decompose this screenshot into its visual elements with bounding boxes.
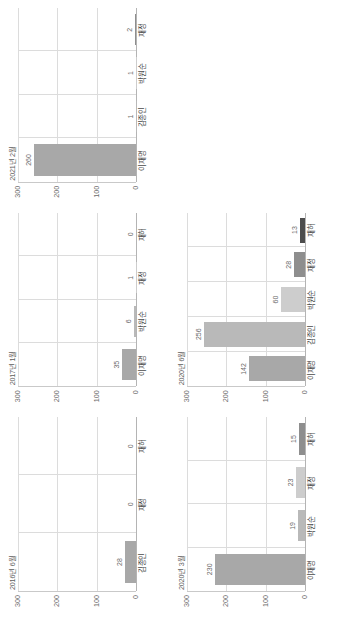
bar-value-label: 15 — [290, 435, 298, 443]
x-tick-label: 박원순 — [305, 283, 317, 318]
bar[interactable] — [122, 349, 136, 380]
plot-canvas: 260112 — [18, 8, 136, 183]
bar[interactable] — [34, 144, 136, 175]
bar-value-label: 28 — [285, 261, 293, 269]
bar-value-label: 1 — [127, 115, 135, 119]
bar-column[interactable]: 142 — [187, 352, 305, 387]
bar[interactable] — [299, 423, 305, 454]
bar-series: 260112 — [18, 8, 136, 182]
bar-column[interactable]: 35 — [18, 343, 136, 386]
bar-value-label: 2 — [126, 28, 134, 32]
bar[interactable] — [296, 467, 305, 498]
axis-baseline — [305, 213, 306, 387]
bar-value-label: 23 — [287, 479, 295, 487]
y-tick-label: 200 — [53, 390, 61, 402]
bar[interactable] — [294, 252, 305, 277]
x-axis: 이재명박원순재정재허 — [136, 213, 148, 388]
y-tick-label: 300 — [14, 390, 22, 402]
y-axis: 3002001000 — [187, 592, 305, 616]
bar[interactable] — [125, 541, 136, 583]
bar-column[interactable]: 260 — [18, 138, 136, 181]
axis-baseline — [136, 213, 137, 387]
bar-value-label: 230 — [206, 563, 214, 575]
bar-column[interactable]: 0 — [18, 475, 136, 533]
x-tick-label: 재허 — [305, 213, 317, 248]
x-tick-label: 재허 — [305, 417, 317, 461]
bar[interactable] — [204, 322, 305, 347]
bar-value-label: 28 — [116, 558, 124, 566]
chart-panel-empty — [175, 4, 344, 209]
chart-panel-2020-06: 2020년 6월 3002001000 142256602813 이재명김종인박… — [175, 209, 344, 414]
x-tick-label: 재허 — [136, 213, 148, 257]
chart-panel-2017-01: 2017년 1월 3002001000 35610 이재명박원순재정재허 — [6, 209, 175, 414]
bar-value-label: 256 — [195, 328, 203, 340]
bar-series: 2800 — [18, 417, 136, 591]
bar-value-label: 35 — [113, 361, 121, 369]
x-tick-label: 박원순 — [136, 300, 148, 344]
bar-column[interactable]: 1 — [18, 51, 136, 94]
x-tick-label: 박원순 — [136, 52, 148, 96]
x-axis: 김종인재정재허 — [136, 417, 148, 592]
bar-value-label: 0 — [127, 444, 135, 448]
y-tick-label: 100 — [93, 186, 101, 198]
bar[interactable] — [298, 510, 305, 541]
x-tick-label: 재정 — [136, 256, 148, 300]
bar-series: 35610 — [18, 213, 136, 387]
bar-column[interactable]: 28 — [18, 533, 136, 591]
bar-column[interactable]: 230 — [187, 548, 305, 591]
bar-column[interactable]: 1 — [18, 95, 136, 138]
y-tick-label: 0 — [301, 595, 309, 599]
plot-canvas: 142256602813 — [187, 213, 305, 388]
bar[interactable] — [215, 554, 305, 585]
bar-column[interactable]: 0 — [18, 213, 136, 256]
bar-column[interactable]: 256 — [187, 317, 305, 352]
plot-area: 3002001000 142256602813 — [187, 213, 305, 412]
y-axis: 3002001000 — [18, 592, 136, 616]
x-axis: 이재명김종인박원순재정 — [136, 8, 148, 183]
bar-column[interactable]: 13 — [187, 213, 305, 248]
bar[interactable] — [300, 218, 305, 243]
y-tick-label: 100 — [262, 595, 270, 607]
bar-column[interactable]: 23 — [187, 461, 305, 504]
y-tick-label: 300 — [14, 595, 22, 607]
bar-column[interactable]: 1 — [18, 256, 136, 299]
axis-baseline — [136, 8, 137, 182]
plot-canvas: 2800 — [18, 417, 136, 592]
bar-column[interactable]: 19 — [187, 504, 305, 547]
bar-value-label: 0 — [127, 502, 135, 506]
chart-title: 2020년 3월 — [177, 417, 186, 590]
bar[interactable] — [249, 356, 305, 381]
x-tick-label: 박원순 — [305, 505, 317, 549]
x-tick-label: 이재명 — [305, 352, 317, 387]
chart-title: 2016년 6월 — [8, 417, 17, 590]
x-tick-label: 이재명 — [305, 548, 317, 592]
y-tick-label: 0 — [132, 186, 140, 190]
bar[interactable] — [281, 287, 305, 312]
x-tick-label: 이재명 — [136, 139, 148, 183]
bar[interactable] — [135, 14, 136, 45]
bar-column[interactable]: 28 — [187, 247, 305, 282]
chart-panel-2020-03: 2020년 3월 3002001000 230192315 이재명박원순재정재허 — [175, 413, 344, 618]
bar-column[interactable]: 6 — [18, 300, 136, 343]
y-axis: 3002001000 — [187, 387, 305, 411]
x-tick-label: 재정 — [136, 476, 148, 534]
bar-column[interactable]: 60 — [187, 282, 305, 317]
bar-column[interactable]: 0 — [18, 417, 136, 475]
y-tick-label: 200 — [53, 595, 61, 607]
y-tick-label: 100 — [93, 595, 101, 607]
chart-title: 2021년 2월 — [8, 8, 17, 181]
y-tick-label: 100 — [262, 390, 270, 402]
plot-canvas: 35610 — [18, 213, 136, 388]
x-axis: 이재명김종인박원순재정재허 — [305, 213, 317, 388]
plot-area: 3002001000 2800 — [18, 417, 136, 616]
bar[interactable] — [134, 306, 136, 337]
bar-column[interactable]: 2 — [18, 8, 136, 51]
bar-value-label: 13 — [291, 226, 299, 234]
x-tick-label: 이재명 — [136, 344, 148, 388]
bar-value-label: 260 — [25, 154, 33, 166]
bar-column[interactable]: 15 — [187, 417, 305, 460]
plot-area: 3002001000 35610 — [18, 213, 136, 412]
bar-series: 142256602813 — [187, 213, 305, 387]
x-tick-label: 재허 — [136, 417, 148, 475]
y-tick-label: 200 — [222, 595, 230, 607]
